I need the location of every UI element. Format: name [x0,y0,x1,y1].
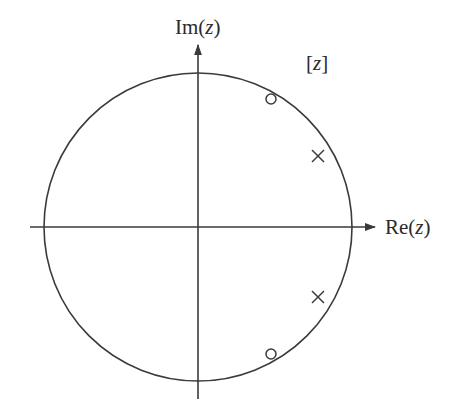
zero-marker-lower [266,349,276,359]
zero-marker-upper [266,94,276,104]
pole-zero-diagram: Im(z) Re(z) [z] [0,0,456,420]
pole-marker-upper [312,150,324,162]
imag-axis-label: Im(z) [175,15,221,39]
real-axis-label: Re(z) [385,215,431,239]
plane-label: [z] [306,51,328,75]
pole-marker-lower [312,291,324,303]
